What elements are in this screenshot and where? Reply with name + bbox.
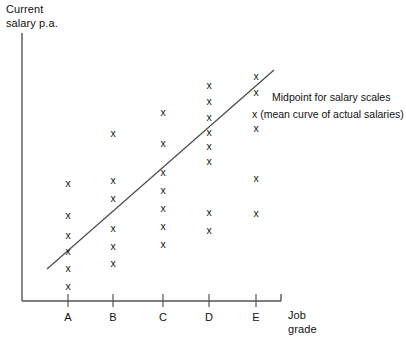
data-point-d: x — [206, 207, 211, 218]
data-point-c: x — [160, 203, 165, 214]
data-point-c: x — [160, 138, 165, 149]
data-point-c: x — [160, 221, 165, 232]
data-point-d: x — [206, 141, 211, 152]
data-point-d: x — [206, 112, 211, 123]
data-point-b: x — [110, 193, 115, 204]
x-axis-label-d: D — [205, 311, 213, 323]
data-point-a: x — [65, 281, 70, 292]
salary-scatter-chart: xxxxxxxxxxxxxxxxxxxxxxxxxxxxxxxx ABCDE C… — [0, 0, 406, 345]
data-point-e: x — [253, 208, 258, 219]
x-axis-label-c: C — [159, 311, 167, 323]
chart-plot-area — [0, 0, 406, 345]
data-point-d: x — [206, 156, 211, 167]
data-point-c: x — [160, 167, 165, 178]
data-point-b: x — [110, 223, 115, 234]
data-point-c: x — [160, 185, 165, 196]
data-point-a: x — [65, 178, 70, 189]
axes-group — [22, 33, 281, 301]
data-point-e: x — [253, 71, 258, 82]
data-point-d: x — [206, 127, 211, 138]
data-point-c: x — [160, 239, 165, 250]
data-point-d: x — [206, 80, 211, 91]
x-axis-label-e: E — [252, 311, 259, 323]
data-point-b: x — [110, 241, 115, 252]
data-point-b: x — [110, 258, 115, 269]
data-point-a: x — [65, 263, 70, 274]
data-point-e: x — [253, 173, 258, 184]
data-point-e: x — [253, 87, 258, 98]
data-point-c: x — [160, 107, 165, 118]
data-point-a: x — [65, 210, 70, 221]
data-point-d: x — [206, 225, 211, 236]
legend-midpoint-label: Midpoint for salary scales — [272, 91, 390, 104]
legend-mean-curve-label: x (mean curve of actual salaries) — [252, 108, 404, 121]
x-axis-label-b: B — [109, 311, 116, 323]
data-point-b: x — [110, 128, 115, 139]
x-axis-label-a: A — [64, 311, 71, 323]
data-point-a: x — [65, 230, 70, 241]
data-point-d: x — [206, 96, 211, 107]
y-axis-title: Current salary p.a. — [6, 3, 58, 30]
data-point-e: x — [253, 123, 258, 134]
x-axis-title: Job grade — [288, 309, 317, 336]
data-point-b: x — [110, 175, 115, 186]
data-point-a: x — [65, 246, 70, 257]
